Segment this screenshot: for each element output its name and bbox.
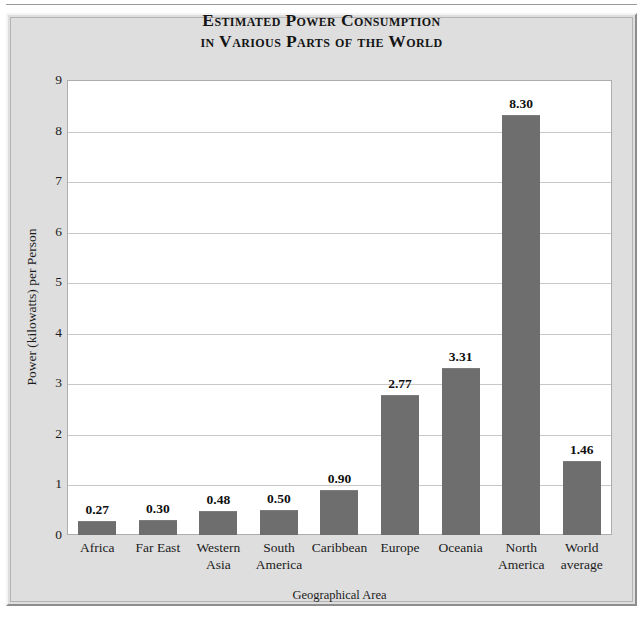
y-axis-tick-label: 1 <box>0 476 62 492</box>
x-axis-tick-label-line: America <box>246 556 312 573</box>
bar[interactable] <box>139 520 177 535</box>
bar[interactable] <box>381 395 419 535</box>
bar[interactable] <box>502 115 540 535</box>
y-axis-tick-label: 0 <box>0 527 62 543</box>
bar-value-label: 0.48 <box>207 492 231 508</box>
x-axis-tick-label-line: Europe <box>367 539 433 556</box>
x-axis-tick-label: Europe <box>367 539 433 556</box>
bar[interactable] <box>563 461 601 535</box>
bar-value-label: 0.30 <box>146 501 170 517</box>
chart-title-line-2: in Various Parts of the World <box>0 31 643 52</box>
bar[interactable] <box>442 368 480 535</box>
chart-title: Estimated Power Consumption in Various P… <box>0 10 643 52</box>
bar-value-label: 0.27 <box>85 502 109 518</box>
x-axis-tick-label-line: South <box>246 539 312 556</box>
bar-slot: 0.30 <box>128 80 189 535</box>
bar[interactable] <box>78 521 116 535</box>
bars-layer: 0.270.300.480.500.902.773.318.301.46 <box>67 80 612 535</box>
bar-slot: 0.48 <box>188 80 249 535</box>
x-axis-tick-label: Caribbean <box>307 539 373 556</box>
x-axis-tick-label-line: Asia <box>185 556 251 573</box>
x-axis-tick-label-line: Africa <box>64 539 130 556</box>
x-axis-tick-label-line: World <box>549 539 615 556</box>
bar-value-label: 2.77 <box>388 376 412 392</box>
bar-slot: 0.50 <box>249 80 310 535</box>
bar[interactable] <box>199 511 237 535</box>
bar-slot: 0.27 <box>67 80 128 535</box>
x-axis-tick-label: Oceania <box>428 539 494 556</box>
x-axis-tick-label-line: America <box>488 556 554 573</box>
y-axis-title: Power (kilowatts) per Person <box>24 228 40 385</box>
y-axis-tick-label: 7 <box>0 173 62 189</box>
x-axis-tick-label: WesternAsia <box>185 539 251 573</box>
x-axis-tick-label: SouthAmerica <box>246 539 312 573</box>
page-top-rule <box>6 4 637 5</box>
x-axis-tick-label-line: Western <box>185 539 251 556</box>
bar-slot: 1.46 <box>551 80 612 535</box>
y-axis-tick-label: 9 <box>0 72 62 88</box>
bar[interactable] <box>320 490 358 536</box>
bar[interactable] <box>260 510 298 535</box>
x-axis-tick-label-line: Oceania <box>428 539 494 556</box>
x-axis-tick-label: Worldaverage <box>549 539 615 573</box>
x-axis-tick-label: Africa <box>64 539 130 556</box>
x-axis-tick-label-line: Caribbean <box>307 539 373 556</box>
x-axis-tick-label: NorthAmerica <box>488 539 554 573</box>
bar-value-label: 8.30 <box>509 96 533 112</box>
x-axis-tick-label-line: North <box>488 539 554 556</box>
x-axis-tick-label-line: average <box>549 556 615 573</box>
y-axis-tick-label: 2 <box>0 426 62 442</box>
chart-title-line-1: Estimated Power Consumption <box>202 10 440 30</box>
bar-value-label: 0.90 <box>328 471 352 487</box>
bar-slot: 3.31 <box>430 80 491 535</box>
bar-value-label: 0.50 <box>267 491 291 507</box>
x-axis-tick-labels: AfricaFar EastWesternAsiaSouthAmericaCar… <box>67 539 612 583</box>
x-axis-tick-label: Far East <box>125 539 191 556</box>
bar-slot: 8.30 <box>491 80 552 535</box>
bar-slot: 0.90 <box>309 80 370 535</box>
bar-slot: 2.77 <box>370 80 431 535</box>
bar-value-label: 3.31 <box>449 349 473 365</box>
bar-value-label: 1.46 <box>570 442 594 458</box>
y-axis-tick-label: 8 <box>0 123 62 139</box>
x-axis-tick-label-line: Far East <box>125 539 191 556</box>
x-axis-title: Geographical Area <box>67 588 612 603</box>
